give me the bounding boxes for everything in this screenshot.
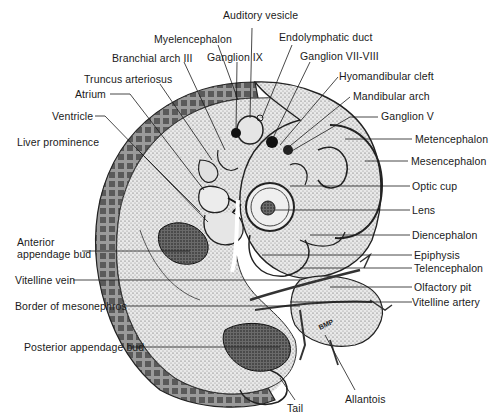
label-allantois: Allantois: [345, 393, 386, 405]
label-border-of-mesonephros: Border of mesonephros: [15, 300, 127, 312]
label-endolymphatic-duct: Endolymphatic duct: [279, 31, 372, 43]
label-ventricle: Ventricle: [52, 110, 93, 122]
embryo-diagram: BMP Auditory vesicle Myelencephalon Endo…: [0, 0, 494, 420]
label-epiphysis: Epiphysis: [414, 249, 460, 261]
label-branchial-arch-iii: Branchial arch III: [112, 52, 193, 64]
label-ganglion-ix: Ganglion IX: [207, 51, 263, 63]
label-posterior-appendage-bud: Posterior appendage bud: [24, 341, 144, 353]
label-truncus-arteriosus: Truncus arteriosus: [84, 73, 172, 85]
label-ganglion-v: Ganglion V: [381, 110, 434, 122]
label-lens: Lens: [412, 204, 435, 216]
label-hyomandibular-cleft: Hyomandibular cleft: [339, 70, 434, 82]
label-anterior-appendage-bud: Anterior appendage bud: [17, 236, 91, 260]
label-ganglion-vii-viii: Ganglion VII-VIII: [300, 50, 379, 62]
label-vitelline-artery: Vitelline artery: [412, 296, 480, 308]
label-telencephalon: Telencephalon: [414, 262, 483, 274]
label-optic-cup: Optic cup: [412, 180, 457, 192]
label-myelencephalon: Myelencephalon: [154, 33, 232, 45]
label-olfactory-pit: Olfactory pit: [414, 281, 471, 293]
label-auditory-vesicle: Auditory vesicle: [223, 9, 298, 21]
label-mesencephalon: Mesencephalon: [411, 155, 486, 167]
label-diencephalon: Diencephalon: [412, 229, 477, 241]
label-mandibular-arch: Mandibular arch: [353, 90, 430, 102]
embryo-body: [96, 82, 392, 407]
label-tail: Tail: [287, 402, 303, 414]
label-metencephalon: Metencephalon: [415, 133, 488, 145]
label-liver-prominence: Liver prominence: [17, 136, 99, 148]
label-vitelline-vein: Vitelline vein: [15, 274, 75, 286]
label-atrium: Atrium: [75, 88, 106, 100]
